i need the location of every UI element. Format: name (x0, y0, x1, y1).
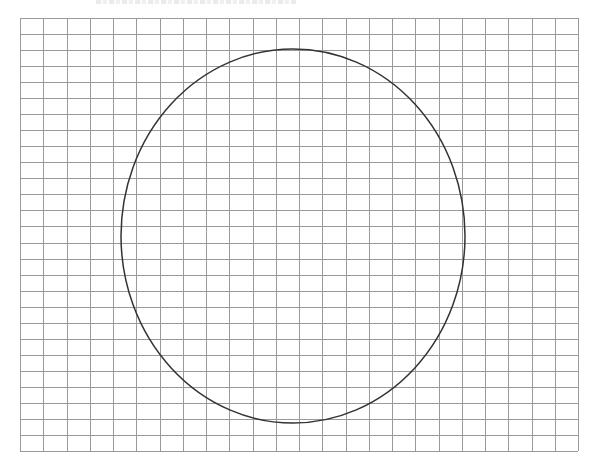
grid-lines (20, 18, 579, 452)
grid-figure (0, 0, 596, 466)
circle-outline (121, 49, 465, 423)
